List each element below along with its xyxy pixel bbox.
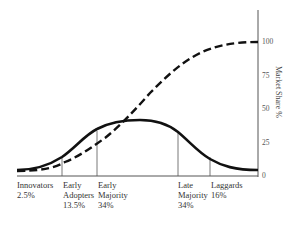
segment-label-late-majority: Late Majority 34% — [178, 180, 208, 210]
segment-name: Laggards — [211, 180, 243, 190]
segment-label-early-majority: Early Majority 34% — [98, 180, 128, 210]
segment-name-2: Majority — [178, 190, 208, 200]
adoption-bell-curve — [17, 120, 258, 170]
segment-share: 16% — [211, 190, 243, 200]
segment-name-2: Adopters — [63, 190, 94, 200]
segment-name-1: Early — [63, 180, 94, 190]
market-share-s-curve — [17, 42, 258, 171]
segment-label-laggards: Laggards 16% — [211, 180, 243, 200]
y-tick-50: 50 — [262, 104, 270, 113]
segment-label-early-adopters: Early Adopters 13.5% — [63, 180, 94, 210]
y-tick-100: 100 — [262, 37, 273, 46]
y-tick-75: 75 — [262, 71, 270, 80]
segment-name: Innovators — [17, 180, 53, 190]
segment-share: 34% — [178, 200, 208, 210]
segment-name-1: Early — [98, 180, 128, 190]
segment-name-1: Late — [178, 180, 208, 190]
y-axis-label: Market Share % — [274, 66, 283, 118]
segment-share: 2.5% — [17, 190, 53, 200]
segment-label-innovators: Innovators 2.5% — [17, 180, 53, 200]
segment-share: 13.5% — [63, 200, 94, 210]
y-tick-25: 25 — [262, 138, 270, 147]
segment-name-2: Majority — [98, 190, 128, 200]
segment-share: 34% — [98, 200, 128, 210]
y-tick-0: 0 — [262, 171, 266, 180]
